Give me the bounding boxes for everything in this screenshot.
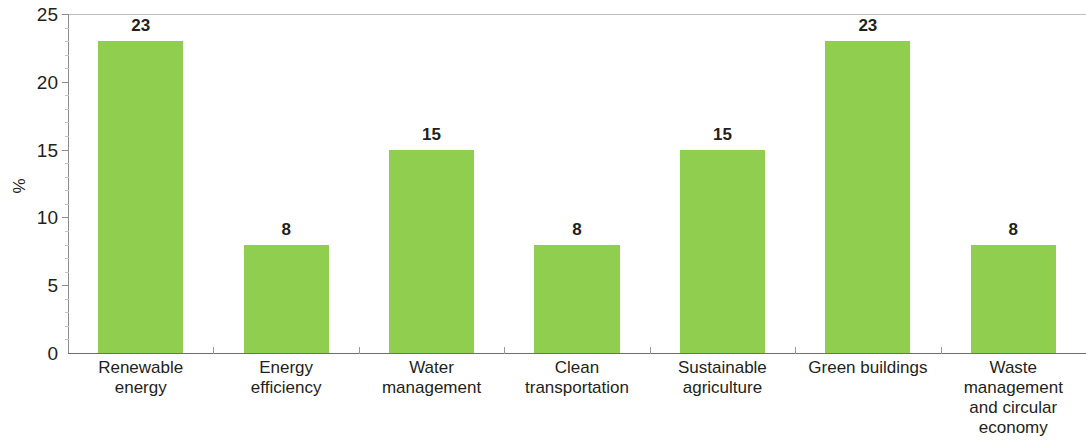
y-axis-minor-tick-mark (65, 122, 69, 123)
y-axis-tick-mark (62, 217, 69, 218)
bar-chart: % 0510152025 23815815238 Renewableenergy… (0, 0, 1086, 441)
bar[interactable] (389, 150, 474, 353)
y-axis-minor-tick-mark (65, 339, 69, 340)
y-axis-minor-tick-mark (65, 163, 69, 164)
x-axis-tick-mark (941, 347, 942, 354)
x-axis-category-label-line: agriculture (650, 378, 795, 398)
x-axis-category-label-line: Sustainable (650, 358, 795, 378)
bar-group: 8 (244, 14, 329, 353)
x-axis-category-label: Sustainableagriculture (650, 358, 795, 398)
y-axis-minor-tick-mark (65, 28, 69, 29)
x-axis-category-label-line: economy (941, 418, 1086, 438)
x-axis-category-label-line: management (941, 378, 1086, 398)
bar[interactable] (534, 245, 619, 353)
y-axis-tick-mark (62, 150, 69, 151)
x-axis-category-label-line: Green buildings (795, 358, 940, 378)
bar[interactable] (971, 245, 1056, 353)
x-axis-category-label-line: management (359, 378, 504, 398)
x-axis-category-label-line: Waste (941, 358, 1086, 378)
x-axis-category-label: Energyefficiency (213, 358, 358, 398)
bar-group: 23 (98, 14, 183, 353)
y-axis-minor-tick-mark (65, 312, 69, 313)
x-axis-category-label: Watermanagement (359, 358, 504, 398)
bar-group: 8 (971, 14, 1056, 353)
bar-value-label: 23 (825, 17, 910, 34)
x-axis-category-label: Cleantransportation (504, 358, 649, 398)
bar-value-label: 15 (680, 126, 765, 143)
x-axis-category-label-line: Energy (213, 358, 358, 378)
bar-value-label: 8 (534, 221, 619, 238)
bar-value-label: 8 (244, 221, 329, 238)
x-axis-category-label-line: energy (68, 378, 213, 398)
bar[interactable] (680, 150, 765, 353)
x-axis-line (68, 353, 1086, 354)
y-axis-minor-tick-mark (65, 55, 69, 56)
x-axis-category-label-line: transportation (504, 378, 649, 398)
plot-area: 23815815238 (68, 14, 1086, 353)
y-axis-minor-tick-mark (65, 68, 69, 69)
y-axis-tick-mark (62, 82, 69, 83)
bar[interactable] (825, 41, 910, 353)
x-axis-category-label-line: Water (359, 358, 504, 378)
y-axis-tick-label: 0 (10, 344, 58, 363)
x-axis-category-label-line: Renewable (68, 358, 213, 378)
bar-group: 15 (680, 14, 765, 353)
x-axis-category-label: Wastemanagementand circulareconomy (941, 358, 1086, 438)
y-axis-minor-tick-mark (65, 95, 69, 96)
y-axis-minor-tick-mark (65, 190, 69, 191)
bar-value-label: 23 (98, 17, 183, 34)
bar-value-label: 8 (971, 221, 1056, 238)
y-axis-minor-tick-mark (65, 136, 69, 137)
x-axis-category-label-line: efficiency (213, 378, 358, 398)
y-axis-tick-label: 5 (10, 276, 58, 295)
x-axis-category-label: Renewableenergy (68, 358, 213, 398)
x-axis-tick-mark (795, 347, 796, 354)
bar-value-label: 15 (389, 126, 474, 143)
y-axis-minor-tick-mark (65, 204, 69, 205)
y-axis-tick-label: 15 (10, 140, 58, 159)
y-axis-tick-mark (62, 285, 69, 286)
y-axis-minor-tick-mark (65, 299, 69, 300)
x-axis-category-label: Green buildings (795, 358, 940, 378)
y-axis-minor-tick-mark (65, 245, 69, 246)
x-axis-tick-mark (213, 347, 214, 354)
x-axis-tick-mark (359, 347, 360, 354)
bar[interactable] (98, 41, 183, 353)
x-axis-category-label-line: Clean (504, 358, 649, 378)
y-axis-minor-tick-mark (65, 231, 69, 232)
y-axis-tick-mark (62, 14, 69, 15)
bar-group: 23 (825, 14, 910, 353)
x-axis-tick-mark (504, 347, 505, 354)
y-axis-tick-label: 20 (10, 72, 58, 91)
y-axis-minor-tick-mark (65, 272, 69, 273)
y-axis-tick-label: 25 (10, 5, 58, 24)
bar[interactable] (244, 245, 329, 353)
y-axis-minor-tick-mark (65, 326, 69, 327)
y-axis-tick-label: 10 (10, 208, 58, 227)
x-axis-category-label-line: and circular (941, 398, 1086, 418)
y-axis-minor-tick-mark (65, 177, 69, 178)
y-axis-minor-tick-mark (65, 109, 69, 110)
bar-group: 15 (389, 14, 474, 353)
x-axis-tick-mark (650, 347, 651, 354)
bar-group: 8 (534, 14, 619, 353)
y-axis-tick-labels: 0510152025 (0, 0, 58, 441)
x-axis-category-labels: RenewableenergyEnergyefficiencyWatermana… (68, 358, 1086, 441)
y-axis-minor-tick-mark (65, 258, 69, 259)
y-axis-minor-tick-mark (65, 41, 69, 42)
